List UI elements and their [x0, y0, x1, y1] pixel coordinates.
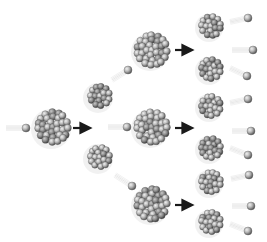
- neutron-icon: [243, 72, 251, 80]
- neutron-icon: [124, 66, 132, 74]
- neutron-trail: [229, 97, 245, 105]
- neutron-icon: [249, 46, 257, 54]
- nucleus: [31, 109, 71, 149]
- neutron-trail: [230, 173, 246, 181]
- neutron-icon: [247, 202, 255, 210]
- neutron-trail: [229, 146, 246, 156]
- neutron-icon: [247, 127, 255, 135]
- nucleus: [131, 32, 170, 71]
- fragment-nucleus: [195, 136, 224, 164]
- neutron-icon: [244, 95, 252, 103]
- fragment-nucleus: [83, 83, 113, 113]
- fragment-nucleus: [195, 56, 223, 85]
- neutron-icon: [244, 151, 252, 159]
- neutron-icon: [244, 227, 252, 235]
- neutron-trail: [229, 16, 245, 24]
- neutron-icon: [22, 124, 30, 132]
- neutron-trail: [232, 129, 248, 134]
- fragment-nucleus: [195, 209, 223, 238]
- neutron-trail: [232, 204, 248, 209]
- neutron-trail: [232, 48, 250, 53]
- fragment-nucleus: [195, 169, 223, 198]
- chain-reaction-diagram: [0, 0, 267, 242]
- nucleus: [131, 186, 170, 225]
- neutron-trail: [6, 126, 23, 131]
- neutron-trail: [229, 222, 246, 232]
- neutron-trail: [108, 125, 124, 130]
- nucleus: [131, 109, 170, 148]
- diagram-canvas: [0, 0, 267, 242]
- fragment-nucleus: [195, 93, 223, 122]
- neutron-trail: [229, 66, 245, 77]
- fragment-nucleus: [83, 144, 113, 174]
- neutron-icon: [245, 171, 253, 179]
- neutron-icon: [244, 14, 252, 22]
- neutron-icon: [128, 182, 136, 190]
- neutron-icon: [123, 123, 131, 131]
- fragment-nucleus: [195, 14, 224, 42]
